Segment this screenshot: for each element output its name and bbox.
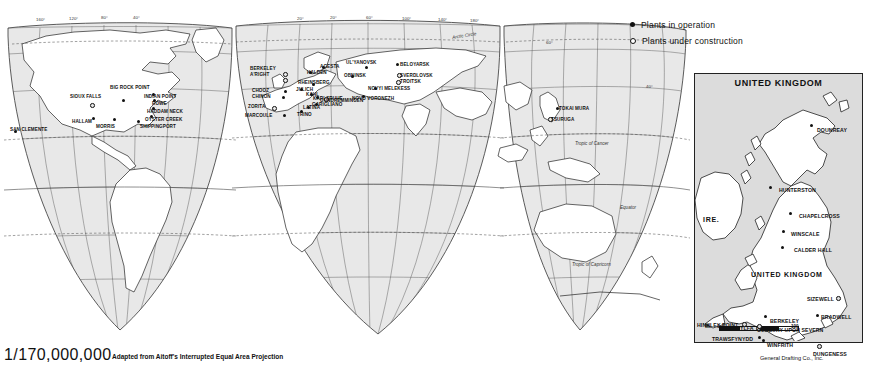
tropic-of-capricorn-label: Tropic of Capricorn xyxy=(572,262,611,267)
world-plant-label: TROITSK xyxy=(400,79,421,84)
world-plant-label: MORRIS xyxy=(96,124,115,129)
world-plant-label: BERKELEY xyxy=(250,66,276,71)
inset-plant-label: DOUNREAY xyxy=(817,127,847,133)
inset-region-uk: UNITED KINGDOM xyxy=(751,271,823,278)
lat-label-40n: 40° xyxy=(646,84,653,89)
inset-plant-label: CALDER HALL xyxy=(794,247,832,253)
lon-label-120w: 120° xyxy=(69,16,78,21)
world-plant-label: UL'YANOVSK xyxy=(346,60,377,65)
world-plant-label: RHEINSBERG xyxy=(298,80,330,85)
legend-label-operation: Plants in operation xyxy=(641,20,715,30)
world-plant-label: HADDAM NECK xyxy=(147,109,183,114)
map-screenshot: 160° 120° 80° 40° 20° 20° 60° 100° 140° … xyxy=(0,0,869,372)
lon-label-160w: 160° xyxy=(36,17,45,22)
inset-plant-label: HINKLEY POINT xyxy=(697,322,738,328)
inset-plant-label: WINFRITH xyxy=(767,342,793,348)
world-map-graphic xyxy=(0,0,690,340)
inset-plant-dot xyxy=(762,339,765,342)
world-plant-label: NOVO VORONEZH xyxy=(352,96,394,101)
world-plant-label: ZORITA xyxy=(248,104,265,109)
world-plant-label: OBNINSK xyxy=(344,73,366,78)
lon-label-40w: 40° xyxy=(133,15,140,20)
world-plant-label: SIOUX FALLS xyxy=(70,94,101,99)
lon-label-60e: 60° xyxy=(366,15,373,20)
inset-plant-label: TRAWSFYNYDD xyxy=(712,336,753,342)
inset-plant-label: BERKELEY xyxy=(770,318,799,324)
inset-title: UNITED KINGDOM xyxy=(695,78,862,88)
legend-label-construction: Plants under construction xyxy=(642,36,743,46)
world-plant-dot xyxy=(283,72,288,77)
uk-inset-map: UNITED KINGDOM IRE. UNITED KINGDOM MI. 0… xyxy=(694,73,863,343)
inset-plant-label: OLDBURY UPON SEVERN xyxy=(757,327,823,333)
lat-label-60n: 60° xyxy=(546,40,553,45)
world-plant-label: TRINO xyxy=(297,112,312,117)
tropic-of-cancer-label: Tropic of Cancer xyxy=(575,141,609,146)
world-plant-label: MARCOULE xyxy=(245,113,272,118)
legend-item-operation: Plants in operation xyxy=(630,18,810,31)
world-map: 160° 120° 80° 40° 20° 20° 60° 100° 140° … xyxy=(0,0,690,340)
legend-item-construction: Plants under construction xyxy=(630,34,810,47)
inset-region-ireland: IRE. xyxy=(703,216,719,223)
publisher-credit: General Drafting Co., Inc. xyxy=(760,355,823,361)
world-plant-dot xyxy=(272,106,277,111)
inset-plant-label: SIZEWELL xyxy=(807,296,834,302)
lon-label-20w: 20° xyxy=(297,16,304,21)
world-plant-label: CHINON xyxy=(252,94,271,99)
world-plant-label: JULICH xyxy=(296,87,313,92)
world-plant-label: AGESTA xyxy=(320,64,339,69)
world-plant-dot xyxy=(90,103,95,108)
world-plant-label: BELOYARSK xyxy=(400,62,429,67)
world-plant-label: TOKAI MURA xyxy=(559,106,589,111)
world-plant-label: BIG ROCK POINT xyxy=(110,85,150,90)
inset-plant-label: BRADWELL xyxy=(821,314,851,320)
world-plant-dot xyxy=(283,78,288,83)
world-plant-label: TSURUGA xyxy=(551,117,574,122)
world-plant-label: ROWE xyxy=(152,101,167,106)
world-plant-label: A'RIGHT xyxy=(250,72,269,77)
world-plant-label: HALDEN xyxy=(307,70,327,75)
open-dot-icon xyxy=(630,38,636,44)
world-plant-label: CHOOZ xyxy=(252,88,269,93)
lon-label-100e: 100° xyxy=(402,16,411,21)
lon-label-180: 180° xyxy=(470,18,479,23)
legend: Plants in operation Plants under constru… xyxy=(630,18,810,50)
filled-dot-icon xyxy=(630,22,635,27)
world-plant-label: NOVYI MELEKESS xyxy=(368,86,410,91)
world-plant-label: SAN CLEMENTE xyxy=(10,127,47,132)
projection-note: Adapted from Aitoff's Interrupted Equal … xyxy=(112,353,283,360)
world-plant-label: INDIAN POINT xyxy=(144,94,176,99)
inset-plant-dot xyxy=(742,322,747,327)
world-plant-label: SVERDLOVSK xyxy=(400,73,433,78)
map-scale-ratio: 1/170,000,000 xyxy=(4,346,112,364)
world-plant-label: OYSTER CREEK xyxy=(145,117,182,122)
world-plant-label: SHIPPINGPORT xyxy=(140,124,176,129)
inset-plant-label: WINSCALE xyxy=(791,231,819,237)
lon-label-80w: 80° xyxy=(101,15,108,20)
lon-label-140e: 140° xyxy=(438,17,447,22)
equator-label: Equator xyxy=(620,205,636,210)
inset-plant-dot xyxy=(817,344,822,349)
inset-plant-label: HUNTERSTON xyxy=(779,187,816,193)
world-plant-label: HALLAM xyxy=(72,119,92,124)
lon-label-20e: 20° xyxy=(330,15,337,20)
uk-inset-graphic xyxy=(695,74,861,341)
inset-plant-label: CHAPELCROSS xyxy=(799,213,840,219)
inset-plant-dot xyxy=(836,296,841,301)
